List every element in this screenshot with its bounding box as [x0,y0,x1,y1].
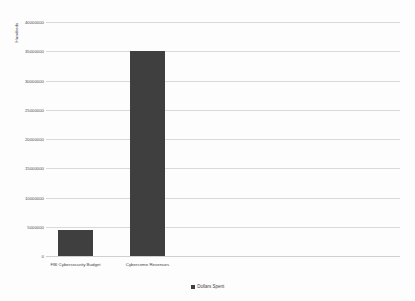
gridline [46,81,400,82]
gridline [46,110,400,111]
gridline [46,256,400,257]
gridline [46,139,400,140]
bar-chart: Hundreds 0500000010000000150000002000000… [0,0,415,301]
gridline [46,198,400,199]
legend: Dollars Spent [0,284,415,290]
y-axis-tick-label: 5000000 [0,224,44,229]
y-axis-tick-label: 15000000 [0,166,44,171]
y-axis-tick-label: 30000000 [0,78,44,83]
y-axis-tick-label: 0 [0,254,44,259]
y-axis-tick-label: 40000000 [0,20,44,25]
plot-area [46,22,400,256]
gridline [46,51,400,52]
y-axis-tick-label: 20000000 [0,137,44,142]
y-axis-tick-label: 35000000 [0,49,44,54]
gridline [46,22,400,23]
bar [130,51,165,256]
y-axis-tick-label: 25000000 [0,107,44,112]
gridline [46,227,400,228]
bar [58,230,93,256]
gridline [46,168,400,169]
y-axis-tick-label: 10000000 [0,195,44,200]
legend-swatch-icon [191,285,195,289]
x-axis-category-label: Cybercrime Revenues [87,262,207,268]
legend-entry-label: Dollars Spent [197,284,224,290]
